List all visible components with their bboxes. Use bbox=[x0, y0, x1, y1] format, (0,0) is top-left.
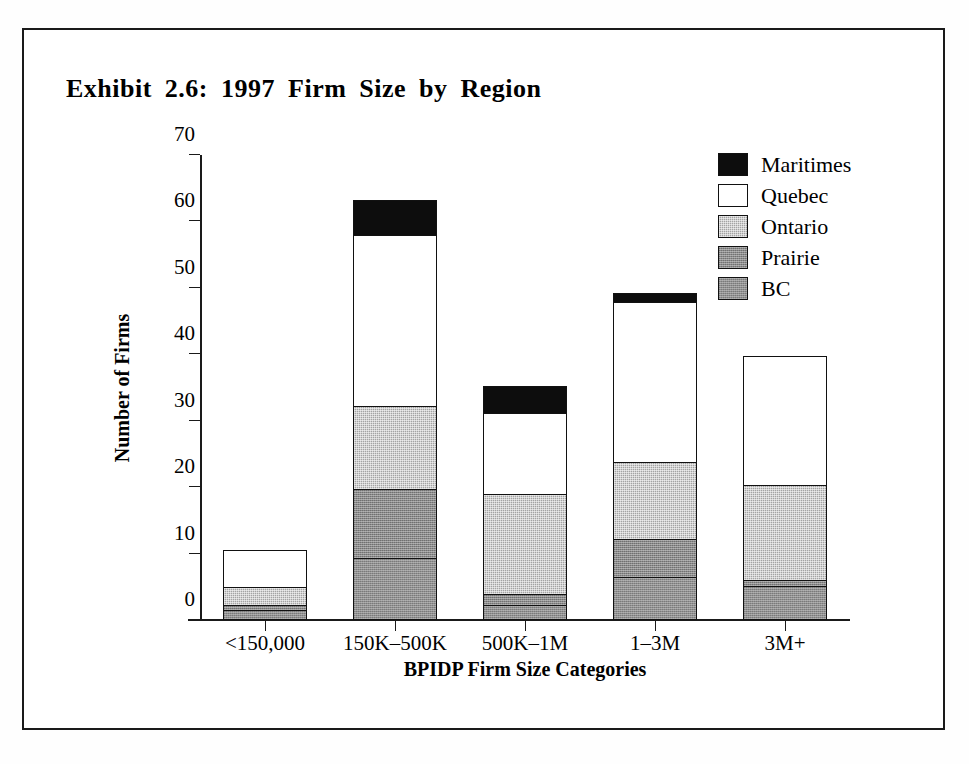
y-axis-tick-label: 0 bbox=[135, 589, 195, 610]
bar-segment-maritimes[interactable] bbox=[613, 293, 697, 302]
y-axis-title: Number of Firms bbox=[111, 313, 134, 462]
legend-item-label: Ontario bbox=[761, 216, 828, 238]
y-axis-tick-label: 20 bbox=[135, 456, 195, 477]
y-axis-tick-label: 50 bbox=[135, 256, 195, 277]
legend-item[interactable]: Quebec bbox=[718, 181, 851, 210]
stacked-bar[interactable] bbox=[613, 155, 697, 620]
bar-segment-quebec[interactable] bbox=[483, 413, 567, 494]
bar-segment-ontario[interactable] bbox=[353, 406, 437, 489]
x-axis-tick bbox=[395, 620, 396, 631]
bar-segment-quebec[interactable] bbox=[353, 235, 437, 406]
y-axis-tick bbox=[189, 619, 200, 620]
x-axis-tick bbox=[785, 620, 786, 631]
bar-segment-quebec[interactable] bbox=[613, 302, 697, 462]
bar-segment-quebec[interactable] bbox=[743, 356, 827, 484]
bar-segment-ontario[interactable] bbox=[223, 587, 307, 605]
y-axis-tick bbox=[189, 553, 200, 554]
legend-item[interactable]: Maritimes bbox=[718, 150, 851, 179]
bar-segment-ontario[interactable] bbox=[613, 462, 697, 539]
y-axis-tick bbox=[189, 486, 200, 487]
chart-legend: MaritimesQuebecOntarioPrairieBC bbox=[718, 150, 851, 305]
bar-segment-prairie[interactable] bbox=[353, 489, 437, 558]
x-axis-tick bbox=[265, 620, 266, 631]
x-axis-tick bbox=[525, 620, 526, 631]
legend-swatch-ontario bbox=[718, 215, 748, 238]
bar-segment-quebec[interactable] bbox=[223, 550, 307, 587]
y-axis-tick-label: 10 bbox=[135, 522, 195, 543]
y-axis-tick bbox=[189, 220, 200, 221]
y-axis-line bbox=[200, 155, 202, 620]
bar-segment-bc[interactable] bbox=[743, 586, 827, 620]
y-axis-tick-label: 60 bbox=[135, 190, 195, 211]
stacked-bar[interactable] bbox=[223, 155, 307, 620]
y-axis-tick bbox=[189, 353, 200, 354]
legend-item[interactable]: BC bbox=[718, 274, 851, 303]
bar-segment-maritimes[interactable] bbox=[353, 200, 437, 235]
bar-segment-bc[interactable] bbox=[223, 610, 307, 620]
y-axis-tick-label: 30 bbox=[135, 389, 195, 410]
x-axis-title: BPIDP Firm Size Categories bbox=[200, 658, 850, 681]
stacked-bar[interactable] bbox=[353, 155, 437, 620]
legend-item[interactable]: Ontario bbox=[718, 212, 851, 241]
y-axis-tick bbox=[189, 420, 200, 421]
bar-segment-bc[interactable] bbox=[353, 558, 437, 620]
legend-item-label: BC bbox=[761, 278, 790, 300]
y-axis-tick bbox=[189, 287, 200, 288]
x-axis-tick bbox=[655, 620, 656, 631]
legend-item-label: Maritimes bbox=[761, 154, 851, 176]
x-axis-tick-label: 3M+ bbox=[695, 631, 875, 656]
bar-segment-maritimes[interactable] bbox=[483, 386, 567, 414]
figure-canvas: Exhibit 2.6: 1997 Firm Size by Region Nu… bbox=[0, 0, 969, 764]
legend-swatch-prairie bbox=[718, 246, 748, 269]
chart-title: Exhibit 2.6: 1997 Firm Size by Region bbox=[66, 74, 542, 104]
bar-segment-prairie[interactable] bbox=[613, 539, 697, 577]
legend-swatch-quebec bbox=[718, 184, 748, 207]
legend-item-label: Prairie bbox=[761, 247, 820, 269]
bar-segment-bc[interactable] bbox=[483, 605, 567, 620]
y-axis-tick-label: 40 bbox=[135, 323, 195, 344]
legend-item[interactable]: Prairie bbox=[718, 243, 851, 272]
bar-segment-ontario[interactable] bbox=[743, 485, 827, 581]
y-axis-tick bbox=[189, 154, 200, 155]
y-axis-tick-label: 70 bbox=[135, 124, 195, 145]
bar-segment-prairie[interactable] bbox=[483, 594, 567, 605]
bar-segment-bc[interactable] bbox=[613, 577, 697, 620]
stacked-bar[interactable] bbox=[483, 155, 567, 620]
bar-segment-ontario[interactable] bbox=[483, 494, 567, 594]
legend-swatch-maritimes bbox=[718, 153, 748, 176]
legend-item-label: Quebec bbox=[761, 185, 828, 207]
legend-swatch-bc bbox=[718, 277, 748, 300]
